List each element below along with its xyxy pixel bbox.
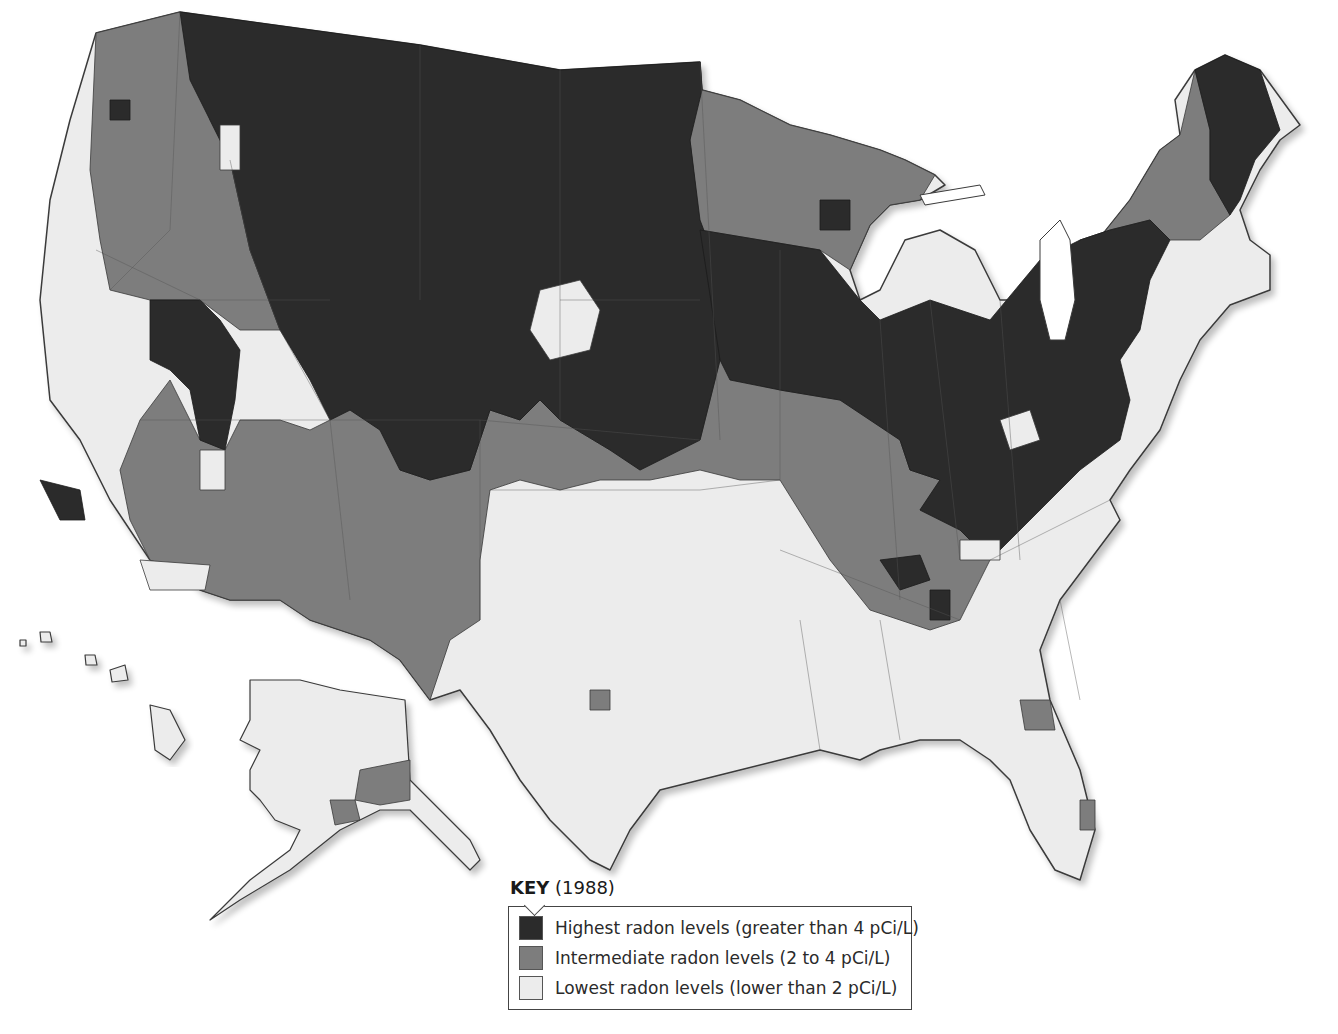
hawaii-island bbox=[150, 705, 185, 760]
hawaii-island bbox=[20, 640, 26, 646]
legend-label-low: Lowest radon levels (lower than 2 pCi/L) bbox=[555, 978, 897, 998]
legend-key-label: KEY bbox=[510, 877, 549, 898]
hawaii-island bbox=[85, 655, 97, 665]
region-lowest bbox=[220, 125, 240, 170]
hawaii-island bbox=[110, 665, 128, 682]
alaska bbox=[210, 680, 480, 920]
region-intermediate bbox=[1080, 800, 1095, 830]
alaska-intermediate-region bbox=[330, 800, 360, 825]
legend-title: KEY (1988) bbox=[510, 876, 912, 900]
region-lowest bbox=[200, 450, 225, 490]
lake bbox=[1040, 220, 1075, 340]
region-highest bbox=[40, 480, 85, 520]
legend-item-high: Highest radon levels (greater than 4 pCi… bbox=[519, 913, 901, 943]
region-highest bbox=[820, 200, 850, 230]
legend-item-intermediate: Intermediate radon levels (2 to 4 pCi/L) bbox=[519, 943, 901, 973]
swatch-low bbox=[519, 976, 543, 1000]
region-lowest bbox=[960, 540, 1000, 560]
region-lowest bbox=[140, 560, 210, 590]
swatch-high bbox=[519, 916, 543, 940]
state-border-line bbox=[1060, 600, 1080, 700]
legend-item-low: Lowest radon levels (lower than 2 pCi/L) bbox=[519, 973, 901, 1003]
legend-box: Highest radon levels (greater than 4 pCi… bbox=[508, 906, 912, 1010]
hawaii bbox=[20, 632, 185, 760]
region-intermediate bbox=[590, 690, 610, 710]
legend-label-intermediate: Intermediate radon levels (2 to 4 pCi/L) bbox=[555, 948, 890, 968]
swatch-intermediate bbox=[519, 946, 543, 970]
map-legend: KEY (1988) Highest radon levels (greater… bbox=[508, 876, 912, 1010]
legend-year: (1988) bbox=[555, 877, 615, 898]
region-highest bbox=[110, 100, 130, 120]
legend-label-high: Highest radon levels (greater than 4 pCi… bbox=[555, 918, 919, 938]
hawaii-island bbox=[40, 632, 52, 642]
region-intermediate bbox=[1020, 700, 1055, 730]
region-highest bbox=[930, 590, 950, 620]
